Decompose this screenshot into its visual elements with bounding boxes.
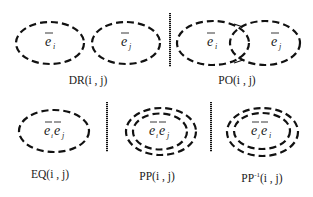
symbol-e-i-e-j: e i e j [149, 122, 170, 140]
panel-eq: e i e j EQ(i , j) [19, 110, 89, 181]
svg-text:i: i [215, 42, 217, 51]
svg-text:e: e [271, 34, 277, 49]
symbol-e-i: e i [45, 33, 55, 51]
panel-po: e i e j PO(i , j) [177, 21, 300, 87]
label-pp-inverse: PP-1(i , j) [241, 171, 282, 185]
label-pp: PP(i , j) [139, 170, 175, 183]
panel-dr: e i e j DR(i , j) [16, 22, 160, 87]
svg-text:j: j [166, 131, 170, 140]
symbol-e-i: e i [207, 33, 217, 51]
label-eq: EQ(i , j) [31, 168, 69, 181]
symbol-e-i-e-j: e i e j [44, 122, 65, 140]
spatial-relations-diagram: e i e j DR(i , j) e i e j PO(i , j) [0, 0, 313, 197]
svg-text:j: j [257, 132, 260, 140]
label-base: PP [241, 172, 254, 184]
symbol-e-j: e j [271, 33, 282, 51]
panel-pp: e i e j PP(i , j) [126, 108, 196, 183]
label-dr: DR(i , j) [69, 74, 108, 87]
svg-text:j: j [128, 42, 132, 51]
symbol-e-j: e j [121, 33, 132, 51]
svg-text:e: e [121, 34, 127, 49]
svg-text:i: i [53, 42, 55, 51]
svg-text:e: e [149, 123, 155, 138]
svg-text:i: i [269, 131, 271, 140]
svg-text:e: e [251, 123, 257, 138]
svg-text:e: e [54, 123, 60, 138]
label-po: PO(i , j) [218, 74, 256, 87]
symbol-e-j-e-i: e j e i [251, 122, 271, 140]
svg-text:e: e [159, 123, 165, 138]
svg-text:j: j [61, 131, 65, 140]
svg-text:i: i [51, 132, 53, 140]
svg-text:e: e [207, 34, 213, 49]
svg-text:e: e [44, 123, 50, 138]
svg-text:e: e [261, 123, 267, 138]
svg-text:e: e [45, 34, 51, 49]
svg-text:i: i [156, 132, 158, 140]
panel-pp-inverse: e j e i PP-1(i , j) [227, 108, 298, 185]
label-args: (i , j) [260, 172, 283, 185]
svg-text:j: j [278, 42, 282, 51]
